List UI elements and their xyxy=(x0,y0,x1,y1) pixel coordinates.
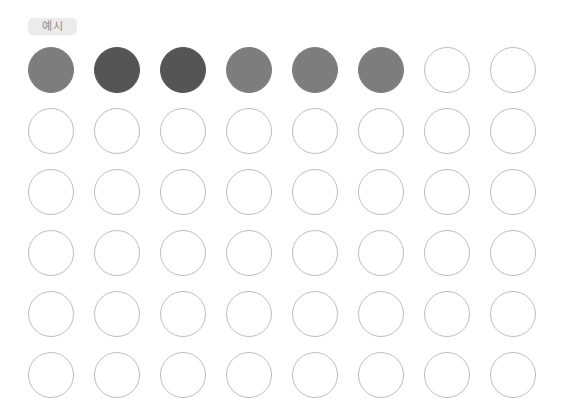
empty-circle xyxy=(424,169,470,215)
empty-circle xyxy=(490,108,536,154)
filled-circle-medium xyxy=(226,47,272,93)
circle-row xyxy=(28,352,556,398)
empty-circle xyxy=(226,169,272,215)
empty-circle xyxy=(226,108,272,154)
empty-circle xyxy=(94,230,140,276)
empty-circle xyxy=(358,352,404,398)
example-label-badge: 예시 xyxy=(28,18,77,35)
filled-circle-medium xyxy=(292,47,338,93)
circle-row xyxy=(28,169,556,215)
empty-circle xyxy=(424,230,470,276)
empty-circle xyxy=(424,291,470,337)
filled-circle-dark xyxy=(94,47,140,93)
filled-circle-medium xyxy=(28,47,74,93)
empty-circle xyxy=(490,169,536,215)
empty-circle xyxy=(226,291,272,337)
empty-circle xyxy=(292,291,338,337)
empty-circle xyxy=(424,352,470,398)
empty-circle xyxy=(490,230,536,276)
empty-circle xyxy=(292,352,338,398)
empty-circle xyxy=(490,47,536,93)
empty-circle xyxy=(490,352,536,398)
empty-circle xyxy=(28,169,74,215)
empty-circle xyxy=(358,230,404,276)
empty-circle xyxy=(28,108,74,154)
circle-row xyxy=(28,47,556,93)
empty-circle xyxy=(292,169,338,215)
circle-row xyxy=(28,108,556,154)
empty-circle xyxy=(160,108,206,154)
circle-row xyxy=(28,291,556,337)
empty-circle xyxy=(226,230,272,276)
empty-circle xyxy=(358,169,404,215)
empty-circle xyxy=(94,169,140,215)
empty-circle xyxy=(160,291,206,337)
filled-circle-dark xyxy=(160,47,206,93)
empty-circle xyxy=(160,352,206,398)
empty-circle xyxy=(94,352,140,398)
empty-circle xyxy=(28,230,74,276)
empty-circle xyxy=(160,230,206,276)
empty-circle xyxy=(358,291,404,337)
empty-circle xyxy=(226,352,272,398)
empty-circle xyxy=(94,291,140,337)
empty-circle xyxy=(28,291,74,337)
empty-circle xyxy=(424,47,470,93)
empty-circle xyxy=(160,169,206,215)
empty-circle xyxy=(358,108,404,154)
empty-circle xyxy=(28,352,74,398)
empty-circle xyxy=(94,108,140,154)
circle-row xyxy=(28,230,556,276)
filled-circle-medium xyxy=(358,47,404,93)
circle-grid xyxy=(28,47,556,413)
empty-circle xyxy=(292,108,338,154)
empty-circle xyxy=(292,230,338,276)
empty-circle xyxy=(424,108,470,154)
empty-circle xyxy=(490,291,536,337)
